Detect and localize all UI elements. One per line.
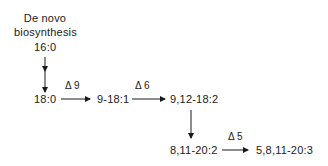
node-16-0: 16:0 — [34, 41, 56, 54]
enzyme-delta-6: Δ 6 — [135, 80, 149, 92]
enzyme-delta-5: Δ 5 — [228, 131, 242, 143]
node-9-12-18-2: 9,12-18:2 — [170, 93, 218, 106]
node-9-18-1: 9-18:1 — [97, 93, 129, 106]
de-novo-label: De novo biosynthesis — [14, 12, 76, 39]
enzyme-delta-9: Δ 9 — [65, 80, 79, 92]
node-8-11-20-2: 8,11-20:2 — [170, 144, 217, 157]
node-18-0: 18:0 — [34, 93, 56, 106]
title-line-2: biosynthesis — [14, 26, 76, 39]
node-5-8-11-20-3: 5,8,11-20:3 — [256, 144, 313, 157]
title-line-1: De novo — [14, 12, 76, 25]
fatty-acid-pathway-diagram: De novo biosynthesis 16:0 18:0 Δ 9 9-18:… — [0, 0, 328, 166]
